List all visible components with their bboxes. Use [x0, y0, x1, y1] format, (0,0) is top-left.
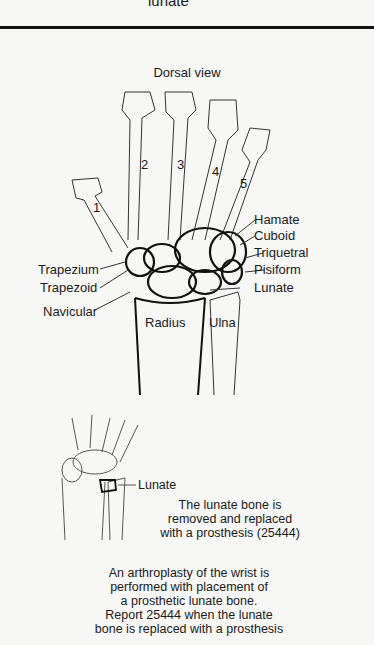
- label-lunate: Lunate: [254, 280, 294, 295]
- digit-5: 5: [240, 176, 247, 191]
- label-trapezoid: Trapezoid: [40, 280, 97, 295]
- inset-label-lunate: Lunate: [138, 478, 176, 492]
- digit-4: 4: [212, 164, 219, 179]
- label-navicular: Navicular: [43, 304, 97, 319]
- label-triquetral: Triquetral: [254, 245, 308, 260]
- wrist-illustration: [0, 0, 374, 645]
- digit-2: 2: [141, 157, 148, 172]
- label-hamate: Hamate: [254, 212, 300, 227]
- digit-1: 1: [93, 200, 100, 215]
- description: An arthroplasty of the wrist is performe…: [55, 566, 323, 636]
- label-pisiform: Pisiform: [254, 262, 301, 277]
- label-radius: Radius: [145, 315, 185, 330]
- label-cuboid: Cuboid: [254, 228, 295, 243]
- label-ulna: Ulna: [209, 315, 236, 330]
- label-trapezium: Trapezium: [38, 262, 99, 277]
- inset-caption: The lunate bone is removed and replaced …: [150, 498, 310, 540]
- digit-3: 3: [177, 157, 184, 172]
